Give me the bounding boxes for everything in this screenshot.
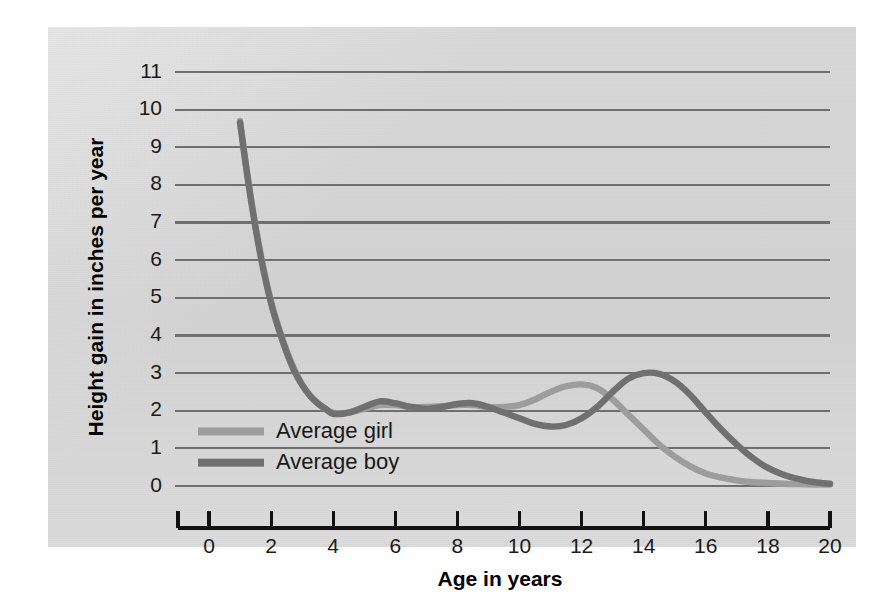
y-tick-label: 9	[150, 134, 162, 157]
gridlines-group	[175, 72, 830, 486]
y-tick-label: 11	[140, 59, 162, 82]
legend-label-average-girl: Average girl	[276, 418, 393, 443]
chart-legend: Average girlAverage boy	[198, 418, 399, 474]
x-tick-label: 12	[570, 534, 593, 557]
x-tick-label: 4	[327, 534, 339, 557]
y-tick-label: 1	[150, 435, 162, 458]
y-tick-label: 5	[150, 284, 162, 307]
y-tick-label: 7	[150, 209, 162, 232]
y-tick-label: 8	[150, 171, 162, 194]
legend-swatch-average-boy	[198, 459, 264, 467]
y-tick-label: 3	[150, 360, 162, 383]
x-tick-label: 0	[203, 534, 215, 557]
x-tick-label: 20	[818, 534, 841, 557]
x-tick-label: 16	[694, 534, 717, 557]
x-tick-label: 8	[452, 534, 464, 557]
x-axis-title: Age in years	[438, 567, 563, 590]
x-tick-label: 10	[508, 534, 531, 557]
x-tick-label: 18	[756, 534, 779, 557]
y-tick-label: 0	[150, 473, 162, 496]
x-tick-label: 14	[632, 534, 656, 557]
chart-figure: 01234567891011 02468101214161820 Average…	[0, 0, 895, 614]
x-tick-label: 6	[389, 534, 401, 557]
y-axis-title: Height gain in inches per year	[84, 138, 107, 437]
growth-velocity-chart: 01234567891011 02468101214161820 Average…	[0, 0, 895, 614]
y-tick-label: 4	[150, 322, 162, 345]
legend-swatch-average-girl	[198, 427, 264, 435]
y-tick-labels-group: 01234567891011	[139, 59, 163, 496]
y-tick-label: 10	[139, 96, 162, 119]
y-tick-label: 6	[150, 247, 162, 270]
legend-label-average-boy: Average boy	[276, 449, 399, 474]
y-tick-label: 2	[150, 397, 162, 420]
x-axis-group	[178, 511, 830, 528]
x-tick-labels-group: 02468101214161820	[203, 534, 842, 557]
x-tick-label: 2	[265, 534, 277, 557]
